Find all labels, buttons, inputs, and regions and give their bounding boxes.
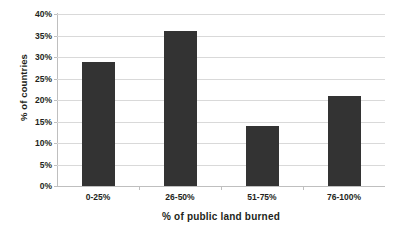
y-axis-tick-mark <box>54 165 57 166</box>
y-axis-tick-label: 25% <box>12 74 52 84</box>
bar <box>164 31 197 186</box>
y-axis-tick-label: 15% <box>12 117 52 127</box>
y-axis-tick-mark <box>54 143 57 144</box>
bar <box>328 96 361 186</box>
x-axis-tick-label: 51-75% <box>221 192 303 202</box>
y-axis-tick-mark <box>54 57 57 58</box>
x-axis-tick-label: 76-100% <box>303 192 385 202</box>
bar <box>82 62 115 186</box>
bar-chart: % of countries 0%5%10%15%20%25%30%35%40%… <box>0 0 396 243</box>
plot-area <box>57 14 385 186</box>
x-axis-tick-mark <box>303 186 304 190</box>
x-axis-tick-label: 0-25% <box>57 192 139 202</box>
y-axis-tick-label: 5% <box>12 160 52 170</box>
x-axis-tick-mark <box>139 186 140 190</box>
x-axis-tick-mark <box>221 186 222 190</box>
y-axis-tick-mark <box>54 122 57 123</box>
y-axis-tick-label: 20% <box>12 95 52 105</box>
y-axis-tick-mark <box>54 79 57 80</box>
y-axis-tick-label: 35% <box>12 31 52 41</box>
y-axis-tick-mark <box>54 36 57 37</box>
x-axis-title: % of public land burned <box>57 211 385 222</box>
y-axis-tick-label: 10% <box>12 138 52 148</box>
x-axis-tick-labels: 0-25%26-50%51-75%76-100% <box>57 192 385 208</box>
y-axis-tick-mark <box>54 186 57 187</box>
y-axis-tick-mark <box>54 100 57 101</box>
y-axis-tick-mark <box>54 14 57 15</box>
bar <box>246 126 279 186</box>
x-axis-tick-label: 26-50% <box>139 192 221 202</box>
bar-series <box>57 14 385 186</box>
y-axis-tick-label: 30% <box>12 52 52 62</box>
y-axis-tick-label: 40% <box>12 9 52 19</box>
y-axis-tick-label: 0% <box>12 181 52 191</box>
